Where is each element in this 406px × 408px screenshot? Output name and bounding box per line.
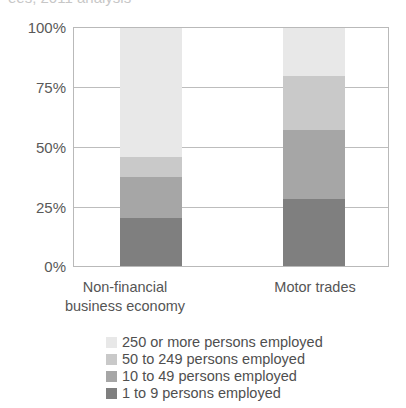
y-tick-50: 50% — [6, 140, 66, 155]
bar-segment[interactable] — [120, 157, 182, 177]
bar-non-financial-business-economy[interactable] — [120, 28, 182, 266]
legend-label-50-to-249: 50 to 249 persons employed — [122, 351, 305, 368]
legend-item-1-to-9[interactable]: 1 to 9 persons employed — [106, 385, 406, 402]
legend-label-250-or-more: 250 or more persons employed — [122, 334, 323, 351]
legend-label-10-to-49: 10 to 49 persons employed — [122, 368, 297, 385]
bar-segment[interactable] — [283, 199, 345, 266]
bar-segment[interactable] — [120, 28, 182, 157]
plot-area — [73, 27, 389, 267]
bar-segment[interactable] — [120, 177, 182, 219]
legend-item-250-or-more[interactable]: 250 or more persons employed — [106, 334, 406, 351]
legend-swatch-1-to-9 — [106, 388, 117, 399]
legend-label-1-to-9: 1 to 9 persons employed — [122, 385, 281, 402]
legend: 250 or more persons employed 50 to 249 p… — [106, 334, 406, 402]
y-tick-100: 100% — [6, 20, 66, 35]
x-category-label-1: Motor trades — [235, 278, 395, 297]
legend-swatch-250-or-more — [106, 337, 117, 348]
x-category-label-0-line1: Non-financial — [45, 278, 205, 297]
legend-swatch-50-to-249 — [106, 354, 117, 365]
x-category-label-0-line2: business economy — [45, 297, 205, 316]
y-tick-25: 25% — [6, 200, 66, 215]
legend-swatch-10-to-49 — [106, 371, 117, 382]
bar-segment[interactable] — [283, 28, 345, 76]
legend-item-50-to-249[interactable]: 50 to 249 persons employed — [106, 351, 406, 368]
legend-item-10-to-49[interactable]: 10 to 49 persons employed — [106, 368, 406, 385]
x-category-label-0: Non-financial business economy — [45, 278, 205, 316]
bar-segment[interactable] — [283, 130, 345, 199]
y-tick-75: 75% — [6, 80, 66, 95]
chart-title: ees, 2011 analysis — [0, 0, 406, 9]
bar-segment[interactable] — [120, 218, 182, 266]
bar-segment[interactable] — [283, 76, 345, 131]
x-category-label-1-line1: Motor trades — [235, 278, 395, 297]
bar-motor-trades[interactable] — [283, 28, 345, 266]
y-tick-0: 0% — [6, 259, 66, 274]
